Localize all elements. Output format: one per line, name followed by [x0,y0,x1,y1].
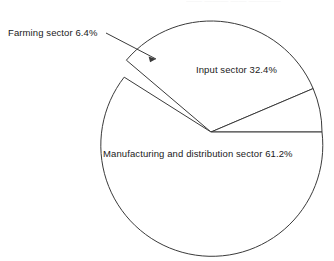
slice-label-farming-sector: Farming sector 6.4% [8,27,98,38]
pie-chart-graphic [0,0,334,261]
pie-chart-figure: —— ——— —— ———— Farming sector 6.4% Input… [0,0,334,261]
slice-label-input-sector: Input sector 32.4% [196,64,277,75]
slice-label-manufacturing-sector: Manufacturing and distribution sector 61… [103,148,293,159]
pie-slices [101,21,323,256]
